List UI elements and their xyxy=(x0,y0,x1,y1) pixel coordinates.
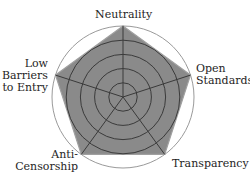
axis-label-transparency: Transparency xyxy=(172,158,249,170)
axis-label-anti-censorship: Anti- Censorship xyxy=(6,149,78,173)
axis-label-neutrality: Neutrality xyxy=(95,9,151,21)
axis-label-text: Neutrality xyxy=(95,8,152,21)
axis-label-text: Standards xyxy=(196,75,250,87)
axis-label-text: Censorship xyxy=(6,161,78,173)
axis-label-text: to Entry xyxy=(0,82,48,94)
axis-label-low-barriers: Low Barriers to Entry xyxy=(0,58,48,94)
axis-label-open-standards: Open Standards xyxy=(196,63,250,87)
axis-label-text: Transparency xyxy=(172,157,249,170)
